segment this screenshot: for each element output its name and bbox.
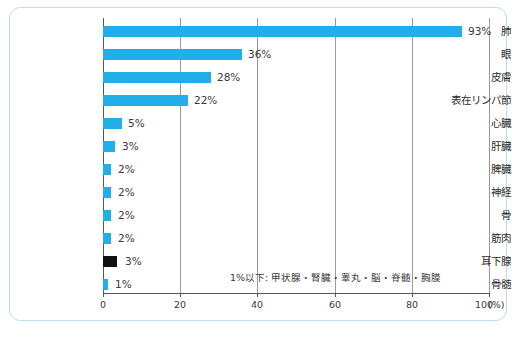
table-row: 皮膚 28%: [0, 67, 518, 88]
bar-value-liver: 3%: [122, 136, 139, 157]
bar-bone: [103, 210, 111, 221]
x-tick-label-60: 60: [315, 299, 355, 310]
x-tick-label-0: 0: [83, 299, 123, 310]
category-label-nerve: 神経: [426, 182, 518, 203]
bar-heart: [103, 118, 122, 129]
category-label-parotid-gland: 耳下腺: [426, 251, 518, 272]
table-row: 心臓 5%: [0, 113, 518, 134]
category-label-heart: 心臓: [426, 113, 518, 134]
bar-value-lung: 93%: [468, 21, 491, 42]
bar-value-nerve: 2%: [118, 182, 135, 203]
table-row: 骨 2%: [0, 205, 518, 226]
chart-annotation: 1%以下: 甲状腺・腎臓・睾丸・脳・脊髄・胸膜: [230, 270, 441, 284]
bar-value-skin: 28%: [217, 67, 240, 88]
bar-spleen: [103, 164, 111, 175]
bar-bone-marrow: [103, 279, 108, 290]
category-label-superficial-lymph-node: 表在リンパ節: [426, 90, 518, 111]
x-tick-label-40: 40: [237, 299, 277, 310]
table-row: 筋肉 2%: [0, 228, 518, 249]
table-row: 肝臓 3%: [0, 136, 518, 157]
category-label-bone: 骨: [426, 205, 518, 226]
bar-value-superficial-lymph-node: 22%: [194, 90, 217, 111]
x-axis-unit-label: (%): [488, 299, 504, 310]
bar-chart: 0 20 40 60 80 100 (%) 肺 93% 眼 36% 皮膚 28%…: [0, 0, 518, 338]
bar-nerve: [103, 187, 111, 198]
table-row: 脾臓 2%: [0, 159, 518, 180]
category-label-eye: 眼: [426, 44, 518, 65]
category-label-skin: 皮膚: [426, 67, 518, 88]
bar-skin: [103, 72, 211, 83]
bar-eye: [103, 49, 242, 60]
table-row: 耳下腺 3%: [0, 251, 518, 272]
bar-value-parotid-gland: 3%: [125, 251, 142, 272]
category-label-spleen: 脾臓: [426, 159, 518, 180]
bar-value-bone-marrow: 1%: [115, 274, 132, 295]
bar-superficial-lymph-node: [103, 95, 188, 106]
table-row: 神経 2%: [0, 182, 518, 203]
bar-muscle: [103, 233, 111, 244]
category-label-liver: 肝臓: [426, 136, 518, 157]
table-row: 表在リンパ節 22%: [0, 90, 518, 111]
category-label-muscle: 筋肉: [426, 228, 518, 249]
table-row: 眼 36%: [0, 44, 518, 65]
bar-value-spleen: 2%: [118, 159, 135, 180]
bar-lung: [103, 26, 462, 37]
bar-value-heart: 5%: [128, 113, 145, 134]
bar-parotid-gland: [103, 256, 117, 267]
bar-value-muscle: 2%: [118, 228, 135, 249]
x-tick-label-80: 80: [392, 299, 432, 310]
table-row: 肺 93%: [0, 21, 518, 42]
bar-liver: [103, 141, 115, 152]
bar-value-bone: 2%: [118, 205, 135, 226]
x-tick-label-20: 20: [160, 299, 200, 310]
bar-value-eye: 36%: [248, 44, 271, 65]
